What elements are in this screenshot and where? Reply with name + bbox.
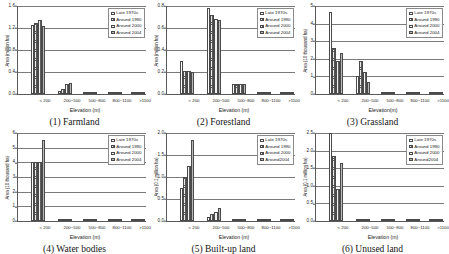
x-axis-ticks: < 200200~500500~800800~1100>1100	[4, 99, 146, 108]
x-tick-label: 500~800	[238, 99, 255, 103]
legend-item: Late 1970s	[409, 138, 439, 142]
legend-swatch-icon	[409, 25, 412, 28]
bar	[440, 92, 444, 94]
x-tick-label: < 200	[40, 226, 51, 230]
x-tick-label: 500~800	[89, 99, 106, 103]
legend-swatch-icon	[260, 25, 263, 28]
y-axis-label: Area (0.1 million ha)	[302, 129, 310, 226]
legend-swatch-icon	[260, 158, 263, 161]
y-axis-label: Area (10 thousand ha)	[4, 129, 12, 226]
legend-swatch-icon	[409, 158, 412, 161]
axes: Late 1970sAround 1990Around 2000Around 2…	[17, 6, 146, 95]
y-tick-label: 0.8	[9, 48, 15, 53]
legend-label: Around 2004	[116, 31, 141, 35]
bar-group	[179, 133, 195, 221]
legend-item: Around 2000	[111, 24, 141, 28]
legend-label: Around2004	[414, 158, 438, 162]
plot-area-wrapper: Area (million ha)0.00.20.40.60.8Late 197…	[153, 2, 295, 99]
legend-label: Late 1970s	[116, 11, 138, 15]
legend-swatch-icon	[111, 158, 114, 161]
bar	[243, 219, 247, 221]
legend-swatch-icon	[111, 145, 114, 148]
x-axis-ticks: < 200200~500500~800800~1100>1100	[4, 226, 146, 235]
legend-swatch-icon	[260, 152, 263, 155]
legend-item: Around 1990	[409, 18, 439, 22]
panel-caption: (4) Water bodies	[43, 245, 106, 254]
bar-group	[206, 133, 222, 221]
legend-swatch-icon	[409, 145, 412, 148]
bar	[367, 219, 371, 221]
legend-item: Around 1990	[111, 145, 141, 149]
y-tick-label: 1.5	[158, 153, 164, 158]
x-axis-ticks: < 200200~500500~800800~1100>1100	[153, 99, 295, 108]
x-tick-label: 800~1100	[113, 99, 132, 103]
y-tick-label: 2	[12, 189, 15, 194]
plot-area-wrapper: Area (10 thousand ha)012345Late 1970sAro…	[302, 2, 444, 99]
legend-label: Around 1990	[265, 18, 290, 22]
x-tick-label: < 200	[189, 99, 200, 103]
legend-item: Around2004	[260, 158, 290, 162]
legend-item: Around 1990	[111, 18, 141, 22]
bar	[119, 219, 123, 221]
x-axis-label: Elevation (m)	[153, 235, 295, 240]
y-tick-label: 2.5	[307, 131, 313, 136]
x-tick-label: < 200	[40, 99, 51, 103]
bar	[42, 140, 46, 221]
legend-item: Around 2000	[260, 24, 290, 28]
panel-caption: (2) Forestland	[197, 118, 251, 128]
y-tick-label: 1.6	[9, 4, 15, 9]
y-tick-label: 6	[12, 131, 15, 136]
x-tick-label: < 200	[189, 226, 200, 230]
bar	[94, 92, 98, 94]
x-tick-label: < 200	[338, 226, 349, 230]
legend-swatch-icon	[409, 139, 412, 142]
bar-group	[179, 6, 195, 94]
y-tick-label: 2.0	[307, 148, 313, 153]
legend-label: Around2004	[265, 158, 289, 162]
x-tick-label: 800~1100	[262, 226, 281, 230]
bar-group	[30, 6, 46, 94]
x-tick-label: 500~800	[387, 226, 404, 230]
chart-panel-2: Area (million ha)0.00.20.40.60.8Late 197…	[149, 0, 298, 127]
y-tick-label: 0.8	[158, 4, 164, 9]
bar	[367, 82, 371, 94]
chart-panel-3: Area (10 thousand ha)012345Late 1970sAro…	[298, 0, 447, 127]
chart-panel-5: Area (0.1 million ha)0.00.51.01.52.0Late…	[149, 127, 298, 254]
bar	[69, 219, 73, 221]
x-tick-label: 200~500	[362, 226, 379, 230]
legend-label: Around 1990	[116, 18, 141, 22]
panel-caption: (5) Built-up land	[192, 245, 256, 254]
legend-swatch-icon	[409, 152, 412, 155]
axes: Late 1970sAround 1990Around 2000Around 2…	[166, 6, 295, 95]
legend: Late 1970sAround 1990Around 2000Around 2…	[108, 8, 144, 38]
legend-label: Around 1990	[265, 145, 290, 149]
y-tick-label: 0.5	[307, 201, 313, 206]
y-tick-label: 1	[310, 74, 313, 79]
axes: Late 1970sAround 1990Around 2000Around 2…	[17, 133, 146, 222]
legend-label: Around 2000	[414, 24, 439, 28]
x-axis-ticks: < 200200~500500~800800~1100>1100	[153, 226, 295, 235]
x-axis-label: Elevation (m)	[153, 108, 295, 113]
bar-group	[82, 6, 98, 94]
x-tick-label: 800~1100	[113, 226, 132, 230]
x-axis-ticks: < 200200~500500~800800~1100>1100	[302, 226, 444, 235]
legend: Late 1970sAround 1990Around 2000Around20…	[257, 135, 293, 165]
y-tick-label: 0.2	[158, 70, 164, 75]
bar	[417, 92, 421, 94]
legend-swatch-icon	[409, 31, 412, 34]
plot-area-wrapper: Area (0.1 million ha)0.00.51.01.52.0Late…	[153, 129, 295, 226]
bar	[69, 83, 73, 94]
bar-group	[380, 133, 396, 221]
x-axis-label: Elevation (m)	[4, 108, 146, 113]
legend-swatch-icon	[111, 25, 114, 28]
legend-label: Around 2004	[116, 158, 141, 162]
legend-label: Late 1970s	[414, 11, 436, 15]
legend-item: Around 2004	[111, 31, 141, 35]
bar-group	[57, 133, 73, 221]
bar	[218, 20, 222, 94]
bar	[291, 219, 295, 221]
bar	[268, 92, 272, 94]
legend-label: Around 1990	[116, 145, 141, 149]
legend: Late 1970sAround 1990Around 2000Around 2…	[257, 8, 293, 38]
y-tick-label: 2	[310, 57, 313, 62]
